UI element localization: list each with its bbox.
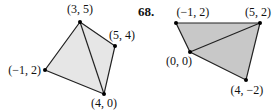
vertex-dot [258,21,262,25]
vertex-label: (3, 5) [67,2,93,16]
quadrilateral-shape [45,22,115,94]
quadrilateral-diagrams: (3, 5)(5, 4)(−1, 2)(4, 0)(−1, 2)(5, 2)(0… [0,0,273,111]
vertex-dot [174,21,178,25]
vertex-dot [113,44,117,48]
vertex-label: (5, 4) [109,28,135,42]
vertex-dot [78,20,82,24]
vertex-label: (−1, 2) [177,5,210,19]
vertex-label: (0, 0) [166,54,192,68]
vertex-label: (−1, 2) [8,63,41,77]
vertex-dot [244,78,248,82]
vertex-label: (4, 0) [91,96,117,110]
figure-1: (3, 5)(5, 4)(−1, 2)(4, 0) [8,2,135,110]
figure-2: (−1, 2)(5, 2)(0, 0)(4, −2) [166,5,271,97]
vertex-label: (4, −2) [231,83,264,97]
vertex-label: (5, 2) [245,5,271,19]
problem-number: 68. [138,4,154,19]
vertex-dot [43,68,47,72]
